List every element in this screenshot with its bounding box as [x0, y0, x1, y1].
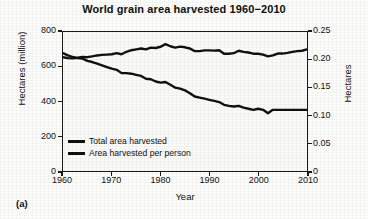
x-axis-tick-label: 1970	[91, 175, 131, 185]
y-axis-right-tick-label: 0.05	[313, 138, 331, 148]
x-axis-tick-label: 2010	[288, 175, 328, 185]
y-axis-right-tick	[308, 30, 312, 31]
panel-label: (a)	[16, 198, 28, 209]
y-axis-right-tick-label: 0.25	[313, 25, 331, 35]
x-axis-tick-label: 2000	[239, 175, 279, 185]
legend-swatch-icon	[68, 152, 85, 155]
y-axis-left-tick-label: 600	[41, 60, 56, 70]
y-axis-right-tick	[308, 115, 312, 116]
x-axis-tick-label: 1960	[42, 175, 82, 185]
y-axis-right-tick-label: 0.10	[313, 110, 331, 120]
line-area-harvested-per-person	[63, 53, 307, 113]
chart-legend: Total area harvested Area harvested per …	[68, 136, 191, 159]
y-axis-right-tick	[308, 87, 312, 88]
line-total-area-harvested	[63, 44, 307, 58]
y-axis-left-tick	[58, 66, 62, 67]
y-axis-left-tick-label: 800	[41, 25, 56, 35]
y-axis-right-tick	[308, 143, 312, 144]
y-axis-right-title: Hectares	[342, 49, 353, 119]
y-axis-right-tick-label: 0.20	[313, 53, 331, 63]
y-axis-left-tick	[58, 30, 62, 31]
legend-item: Total area harvested	[68, 136, 191, 148]
page-title: World grain area harvested 1960−2010	[0, 3, 368, 15]
y-axis-left-tick	[58, 101, 62, 102]
legend-item: Area harvested per person	[68, 148, 191, 160]
y-axis-left-title: Hectares (million)	[16, 13, 27, 125]
legend-swatch-icon	[68, 140, 85, 143]
y-axis-right-tick	[308, 59, 312, 60]
figure-panel: World grain area harvested 1960−2010 020…	[0, 0, 368, 219]
legend-label: Area harvested per person	[89, 148, 191, 160]
y-axis-left-tick	[58, 136, 62, 137]
y-axis-left-tick-label: 400	[41, 96, 56, 106]
legend-label: Total area harvested	[89, 136, 167, 148]
x-axis-tick-label: 1990	[190, 175, 230, 185]
y-axis-left-tick-label: 200	[41, 131, 56, 141]
x-axis-title: Year	[62, 191, 308, 202]
x-axis-tick-label: 1980	[140, 175, 180, 185]
y-axis-right-tick-label: 0.15	[313, 81, 331, 91]
